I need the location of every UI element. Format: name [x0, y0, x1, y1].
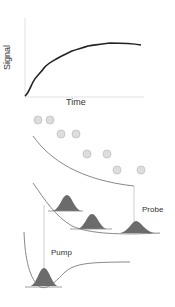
- ground-wavepacket: [30, 268, 58, 286]
- excited-wavepackets: [52, 195, 155, 233]
- probe-label: Probe: [142, 205, 163, 214]
- y-axis-label: Signal: [2, 45, 12, 70]
- x-axis-label: Time: [66, 97, 86, 107]
- signal-chart: [25, 18, 144, 97]
- upper-potential-curve: [33, 136, 134, 186]
- pump-probe-diagram: [0, 0, 175, 307]
- atom-rows: [34, 116, 145, 174]
- pump-label: Pump: [51, 248, 72, 257]
- signal-curve: [25, 43, 141, 96]
